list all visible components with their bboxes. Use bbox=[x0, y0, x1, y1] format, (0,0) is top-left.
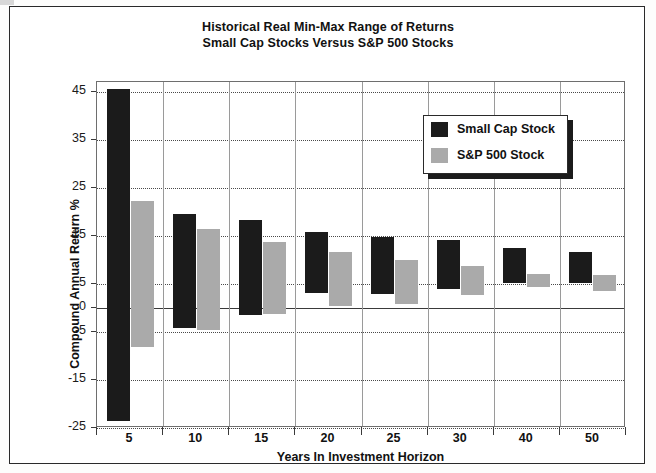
bar-sp500 bbox=[593, 275, 616, 291]
chart-title-block: Historical Real Min-Max Range of Returns… bbox=[10, 19, 646, 51]
bar-sp500 bbox=[131, 201, 154, 347]
chart-title: Historical Real Min-Max Range of Returns bbox=[10, 19, 646, 35]
bar-small-cap bbox=[107, 89, 130, 421]
category-separator bbox=[295, 82, 296, 426]
y-tick-label: 45 bbox=[40, 83, 86, 97]
y-tick-label: 0 bbox=[40, 299, 86, 313]
page-corner-artifact bbox=[0, 0, 14, 5]
bar-sp500 bbox=[197, 229, 220, 331]
y-tick-label: -5 bbox=[40, 323, 86, 337]
chart-page: Historical Real Min-Max Range of Returns… bbox=[0, 0, 656, 473]
legend-label-sp500: S&P 500 Stock bbox=[457, 148, 544, 162]
bar-sp500 bbox=[527, 274, 550, 287]
category-separator bbox=[362, 82, 363, 426]
x-tick-label: 20 bbox=[320, 431, 334, 445]
y-tick-label: 25 bbox=[40, 179, 86, 193]
y-tick-label: 15 bbox=[40, 227, 86, 241]
x-tick-label: 40 bbox=[519, 431, 533, 445]
y-tick-label: 35 bbox=[40, 131, 86, 145]
x-tick-mark bbox=[427, 427, 428, 435]
chart-legend: Small Cap Stock S&P 500 Stock bbox=[423, 115, 568, 174]
gridline bbox=[97, 380, 624, 381]
legend-item-small-cap: Small Cap Stock bbox=[431, 116, 567, 142]
bar-sp500 bbox=[395, 260, 418, 304]
gridline bbox=[97, 92, 624, 93]
x-tick-mark bbox=[96, 427, 97, 435]
y-tick-label: -15 bbox=[40, 371, 86, 385]
legend-label-small-cap: Small Cap Stock bbox=[457, 122, 555, 136]
chart-frame: Historical Real Min-Max Range of Returns… bbox=[9, 6, 645, 464]
legend-swatch-icon-sp500 bbox=[431, 148, 448, 163]
x-tick-mark bbox=[361, 427, 362, 435]
x-tick-label: 10 bbox=[188, 431, 202, 445]
bar-small-cap bbox=[569, 252, 592, 283]
y-tick-label: 5 bbox=[40, 275, 86, 289]
x-axis-label: Years In Investment Horizon bbox=[96, 450, 625, 464]
legend-item-sp500: S&P 500 Stock bbox=[431, 142, 567, 168]
x-tick-mark bbox=[294, 427, 295, 435]
legend-swatch-icon-small-cap bbox=[431, 122, 448, 137]
x-tick-label: 30 bbox=[453, 431, 467, 445]
x-tick-label: 25 bbox=[387, 431, 401, 445]
x-tick-label: 50 bbox=[585, 431, 599, 445]
x-tick-label: 5 bbox=[126, 431, 133, 445]
x-tick-mark bbox=[162, 427, 163, 435]
x-tick-mark bbox=[559, 427, 560, 435]
gridline bbox=[97, 332, 624, 333]
x-tick-label: 15 bbox=[254, 431, 268, 445]
bar-small-cap bbox=[371, 237, 394, 294]
bar-small-cap bbox=[239, 220, 262, 314]
y-tick-label: -25 bbox=[40, 419, 86, 433]
gridline bbox=[97, 188, 624, 189]
bar-sp500 bbox=[461, 266, 484, 295]
bar-small-cap bbox=[503, 248, 526, 283]
x-tick-mark bbox=[228, 427, 229, 435]
chart-subtitle: Small Cap Stocks Versus S&P 500 Stocks bbox=[10, 35, 646, 51]
bar-sp500 bbox=[263, 242, 286, 314]
bar-small-cap bbox=[437, 240, 460, 289]
x-tick-mark bbox=[625, 427, 626, 435]
x-tick-mark bbox=[493, 427, 494, 435]
bar-small-cap bbox=[173, 214, 196, 328]
category-separator bbox=[163, 82, 164, 426]
category-separator bbox=[229, 82, 230, 426]
bar-small-cap bbox=[305, 232, 328, 293]
bar-sp500 bbox=[329, 252, 352, 306]
